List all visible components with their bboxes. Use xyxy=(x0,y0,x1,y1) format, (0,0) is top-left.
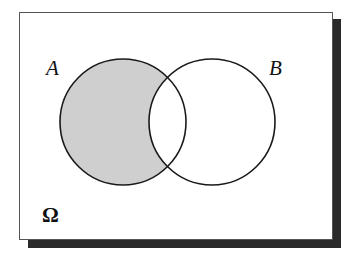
set-a-label: A xyxy=(44,56,59,80)
universe-label: Ω xyxy=(42,203,59,227)
venn-diagram: A B Ω xyxy=(0,0,356,267)
set-b-label: B xyxy=(269,56,282,80)
